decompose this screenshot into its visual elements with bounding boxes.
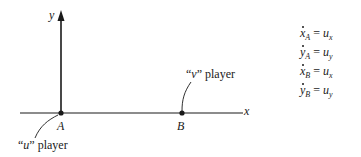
u-player-annotation: “u” player <box>18 139 68 151</box>
v-player-close-text: ” player <box>197 67 235 81</box>
point-b-dot <box>179 110 184 115</box>
v-player-leader-line <box>182 82 191 111</box>
y-axis-arrow-icon <box>58 10 65 21</box>
point-a-label: A <box>57 120 64 132</box>
rhs-subscript: y <box>329 52 333 61</box>
lhs-variable: y <box>300 45 305 59</box>
equals-sign: = <box>310 26 323 40</box>
point-b-label: B <box>177 120 184 132</box>
equation-row: yB = uy <box>300 83 333 102</box>
u-player-close-text: ” player <box>29 138 67 152</box>
equation-row: yA = uy <box>300 45 333 64</box>
equation-row: xB = ux <box>300 64 333 83</box>
lhs-variable: x <box>300 26 305 40</box>
equals-sign: = <box>310 45 323 59</box>
equation-block: xA = ux yA = uy xB = ux yB = uy <box>300 26 333 102</box>
rhs-subscript: x <box>329 71 333 80</box>
lhs-variable: y <box>300 83 305 97</box>
u-player-leader-line <box>35 115 58 138</box>
rhs-subscript: y <box>329 90 333 99</box>
rhs-subscript: x <box>329 33 333 42</box>
lhs-variable: x <box>300 64 305 78</box>
equation-row: xA = ux <box>300 26 333 45</box>
point-a-dot <box>58 110 63 115</box>
v-player-annotation: “v” player <box>186 68 235 80</box>
x-axis-label: x <box>244 105 249 117</box>
y-axis-label: y <box>49 9 54 21</box>
equals-sign: = <box>310 83 323 97</box>
equals-sign: = <box>310 64 323 78</box>
